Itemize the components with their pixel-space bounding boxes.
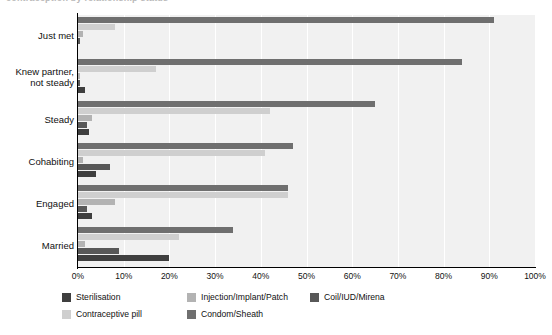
gridline [444, 15, 445, 267]
bar [78, 122, 87, 128]
bar [78, 185, 288, 191]
category-label-line: Knew partner, [0, 66, 74, 77]
bar [78, 66, 156, 72]
bar [78, 24, 115, 30]
gridline [535, 15, 536, 267]
bar [78, 255, 169, 261]
x-tick-label: 50% [298, 271, 315, 281]
category-label-line: not steady [0, 77, 74, 88]
bar [78, 115, 92, 121]
bar [78, 192, 288, 198]
bar [78, 143, 293, 149]
plot-area [78, 15, 535, 267]
x-tick-label: 90% [481, 271, 498, 281]
bar [78, 248, 119, 254]
bar [78, 87, 85, 93]
chart-legend: SterilisationInjection/Implant/PatchCoil… [62, 292, 532, 330]
category-label-line: Cohabiting [0, 156, 74, 167]
category-label-line: Engaged [0, 198, 74, 209]
gridline [398, 15, 399, 267]
legend-swatch-icon [187, 293, 196, 302]
bar [78, 213, 92, 219]
bar [78, 157, 83, 163]
legend-item[interactable]: Injection/Implant/Patch [187, 292, 288, 302]
x-tick-label: 70% [389, 271, 406, 281]
gridline [261, 15, 262, 267]
category-label-line: Just met [0, 30, 74, 41]
legend-swatch-icon [62, 310, 71, 319]
legend-swatch-icon [187, 310, 196, 319]
category-label-line: Married [0, 240, 74, 251]
legend-swatch-icon [62, 293, 71, 302]
legend-label: Injection/Implant/Patch [201, 292, 288, 302]
x-tick-label: 60% [344, 271, 361, 281]
legend-label: Sterilisation [76, 292, 120, 302]
bar [78, 129, 89, 135]
category-label: Knew partner,not steady [0, 66, 74, 88]
bar [78, 199, 115, 205]
x-tick-label: 20% [161, 271, 178, 281]
legend-item[interactable]: Sterilisation [62, 292, 120, 302]
x-tick-label: 10% [115, 271, 132, 281]
category-label: Married [0, 240, 74, 251]
gridline [352, 15, 353, 267]
bar [78, 241, 85, 247]
bar [78, 31, 83, 37]
category-label: Steady [0, 114, 74, 125]
bar [78, 206, 87, 212]
gridline [307, 15, 308, 267]
legend-item[interactable]: Condom/Sheath [187, 309, 263, 319]
legend-label: Condom/Sheath [201, 309, 263, 319]
legend-label: Contraceptive pill [76, 309, 142, 319]
bar [78, 164, 110, 170]
bar [78, 17, 494, 23]
bar [78, 234, 179, 240]
y-axis-line [77, 13, 78, 269]
x-tick-label: 100% [524, 271, 546, 281]
category-label-line: Steady [0, 114, 74, 125]
bar [78, 108, 270, 114]
x-tick-label: 40% [252, 271, 269, 281]
legend-item[interactable]: Coil/IUD/Mirena [310, 292, 385, 302]
bar [78, 150, 265, 156]
grouped-bar-chart: Just metKnew partner,not steadySteadyCoh… [0, 0, 552, 335]
x-tick-label: 30% [207, 271, 224, 281]
x-axis-line [77, 267, 536, 268]
category-axis-labels: Just metKnew partner,not steadySteadyCoh… [0, 15, 74, 267]
x-tick-label: 80% [435, 271, 452, 281]
bar [78, 227, 233, 233]
legend-label: Coil/IUD/Mirena [324, 292, 385, 302]
gridline [489, 15, 490, 267]
legend-swatch-icon [310, 293, 319, 302]
bar [78, 59, 462, 65]
category-label: Engaged [0, 198, 74, 209]
category-label: Just met [0, 30, 74, 41]
bar [78, 101, 375, 107]
legend-item[interactable]: Contraceptive pill [62, 309, 142, 319]
bar [78, 171, 96, 177]
category-label: Cohabiting [0, 156, 74, 167]
x-tick-label: 0% [72, 271, 84, 281]
